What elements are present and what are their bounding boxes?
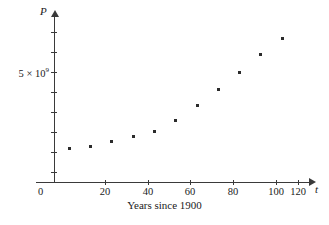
x-axis-tick-label: 120 — [283, 186, 313, 197]
y-axis-tick — [51, 52, 57, 53]
data-point — [68, 147, 71, 150]
origin-label: 0 — [38, 186, 43, 197]
x-axis-tick — [105, 180, 106, 185]
data-point — [217, 88, 220, 91]
y-axis-tick — [51, 32, 57, 33]
data-point — [238, 71, 241, 74]
x-axis-tick-label: 40 — [133, 186, 163, 197]
y-axis-tick — [51, 132, 57, 133]
x-axis-tick — [276, 180, 277, 185]
x-axis-tick-label: 80 — [218, 186, 248, 197]
data-point — [196, 104, 199, 107]
data-point — [174, 119, 177, 122]
x-axis-tick — [148, 180, 149, 185]
data-point — [153, 130, 156, 133]
population-scatter-chart: P t 0 5 × 109 Years since 1900 204060801… — [0, 0, 329, 225]
y-axis-tick-exponent: 9 — [46, 66, 50, 74]
y-axis-tick — [51, 172, 57, 173]
data-point — [259, 53, 262, 56]
x-axis-tick-label: 20 — [90, 186, 120, 197]
y-axis-symbol-label: P — [40, 5, 47, 17]
y-axis-line — [54, 16, 55, 183]
data-point — [132, 135, 135, 138]
y-axis-tick — [51, 72, 57, 73]
x-axis-tick-label: 60 — [175, 186, 205, 197]
y-axis-tick — [51, 92, 57, 93]
y-axis-tick-mantissa: 5 × 10 — [19, 68, 46, 79]
data-point — [281, 37, 284, 40]
y-axis-tick — [51, 152, 57, 153]
x-axis-symbol-label: t — [315, 183, 318, 195]
data-point — [110, 140, 113, 143]
x-axis-tick — [233, 180, 234, 185]
x-axis-tick — [298, 180, 299, 185]
y-axis-arrow-icon — [51, 10, 59, 17]
y-axis-tick — [51, 112, 57, 113]
x-axis-line — [36, 182, 312, 183]
y-axis-tick-label: 5 × 109 — [19, 66, 49, 79]
x-axis-caption: Years since 1900 — [0, 199, 329, 211]
data-point — [89, 145, 92, 148]
x-axis-tick — [190, 180, 191, 185]
y-axis-tick-label-wrap: 5 × 109 — [0, 66, 49, 78]
